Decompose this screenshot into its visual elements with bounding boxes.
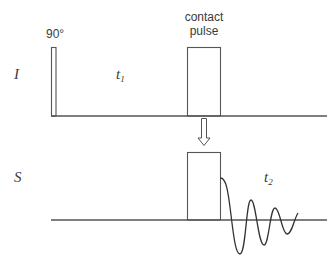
i-channel-label: I: [14, 67, 19, 82]
contact-pulse-label-line2: pulse: [190, 25, 219, 37]
transfer-arrow-icon: [198, 119, 210, 146]
t1-label: t1: [116, 67, 125, 84]
t2-label-sub: 2: [268, 177, 273, 187]
excitation-pulse-label: 90°: [46, 28, 64, 40]
t1-label-sub: 1: [120, 74, 125, 84]
t2-label: t2: [264, 170, 273, 187]
i-contact-pulse: [188, 48, 221, 117]
fid-signal: [221, 178, 299, 254]
contact-pulse-label-line1: contact: [185, 11, 224, 23]
s-channel-label: S: [14, 170, 22, 185]
excitation-pulse-90: [52, 48, 57, 117]
s-contact-pulse: [188, 153, 221, 221]
